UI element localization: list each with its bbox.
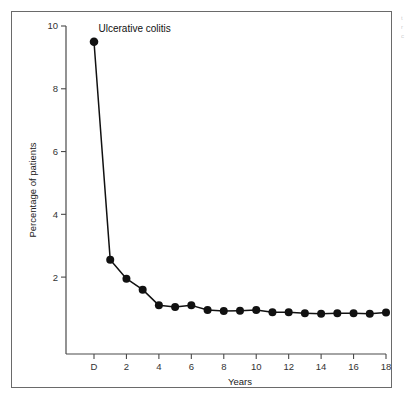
- chart-canvas: 246810D24681012141618YearsPercentage of …: [0, 0, 414, 400]
- series-data-point: [139, 286, 147, 294]
- x-tick-label: 12: [283, 361, 294, 372]
- series-data-point: [122, 275, 130, 283]
- edge-text-line: c: [401, 32, 413, 41]
- x-tick-label: 4: [156, 361, 161, 372]
- y-axis-title: Percentage of patients: [27, 142, 38, 237]
- series-data-point: [333, 309, 341, 317]
- series-data-point: [236, 307, 244, 315]
- x-tick-label: 2: [124, 361, 129, 372]
- series-line: [94, 42, 386, 314]
- panel-title: Ulcerative colitis: [98, 23, 170, 34]
- series-data-point: [285, 308, 293, 316]
- series-data-point: [171, 303, 179, 311]
- series-data-point: [90, 37, 99, 46]
- x-tick-label: D: [91, 361, 98, 372]
- y-tick-label: 10: [47, 20, 58, 31]
- series-data-point: [204, 306, 212, 314]
- edge-text-line: t: [401, 14, 413, 23]
- series-data-point: [252, 306, 260, 314]
- series-data-point: [350, 309, 358, 317]
- series-data-point: [382, 309, 390, 317]
- x-axis-title: Years: [228, 376, 252, 387]
- series-data-point: [220, 307, 228, 315]
- series-data-point: [366, 310, 374, 318]
- y-tick-label: 8: [53, 83, 58, 94]
- x-tick-label: 6: [189, 361, 194, 372]
- series-data-point: [317, 310, 325, 318]
- series-data-point: [155, 301, 163, 309]
- series-data-point: [301, 309, 309, 317]
- x-tick-label: 10: [251, 361, 262, 372]
- y-tick-label: 4: [53, 209, 58, 220]
- series-data-point: [268, 308, 276, 316]
- x-tick-label: 16: [348, 361, 359, 372]
- x-tick-label: 8: [221, 361, 226, 372]
- x-tick-label: 18: [381, 361, 392, 372]
- edge-text-line: r: [401, 23, 413, 32]
- series-data-point: [187, 301, 195, 309]
- x-tick-label: 14: [316, 361, 327, 372]
- y-tick-label: 6: [53, 146, 58, 157]
- series-data-point: [106, 256, 114, 264]
- edge-text-fragment: trc: [401, 14, 413, 41]
- chart-root: 246810D24681012141618YearsPercentage of …: [27, 20, 391, 387]
- y-tick-label: 2: [53, 272, 58, 283]
